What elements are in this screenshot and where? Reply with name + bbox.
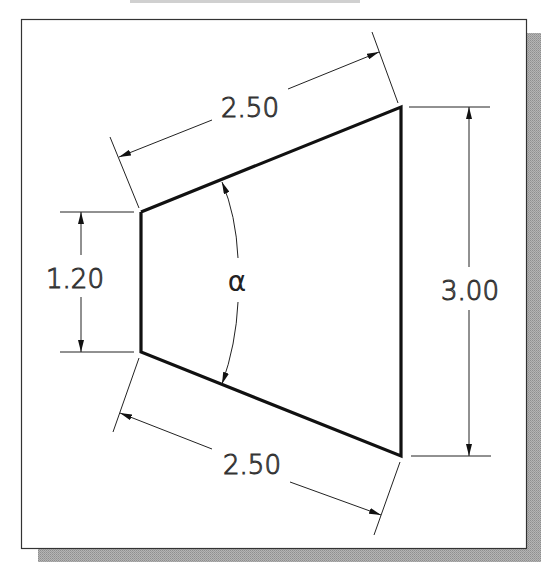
cropped-heading-remnant (130, 0, 360, 3)
dimension-label-top: 2.50 (221, 93, 279, 123)
drawing-canvas: 2.50 2.50 1.20 3.00 α (0, 0, 555, 567)
angle-label-alpha: α (228, 265, 246, 298)
dimension-label-bottom: 2.50 (223, 450, 281, 480)
dimension-label-right: 3.00 (441, 276, 499, 306)
dimension-label-left: 1.20 (46, 264, 104, 294)
